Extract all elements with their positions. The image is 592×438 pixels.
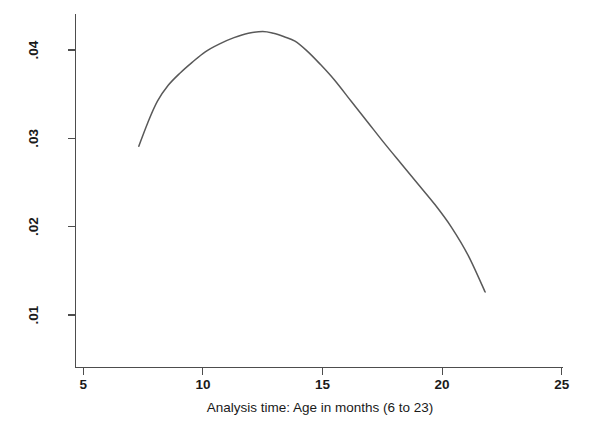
y-axis-ticks	[68, 50, 76, 315]
y-axis-tick-labels: .04 .03 .02 .01	[26, 40, 41, 324]
x-tick-label: 25	[554, 377, 570, 392]
y-tick-label: .01	[26, 305, 41, 324]
y-tick-label: .03	[26, 128, 41, 147]
hazard-curve	[139, 31, 485, 292]
x-tick-label: 10	[195, 377, 210, 392]
x-tick-label: 15	[315, 377, 331, 392]
x-axis-title: Analysis time: Age in months (6 to 23)	[207, 400, 434, 415]
x-tick-label: 20	[435, 377, 450, 392]
hazard-line-chart: .04 .03 .02 .01 5 10 15 20 25 Analysis t…	[0, 0, 592, 438]
y-tick-label: .02	[26, 217, 41, 236]
x-tick-label: 5	[80, 377, 88, 392]
y-tick-label: .04	[26, 40, 41, 59]
x-axis-tick-labels: 5 10 15 20 25	[80, 377, 570, 392]
chart-figure: .04 .03 .02 .01 5 10 15 20 25 Analysis t…	[0, 0, 592, 438]
x-axis-ticks	[83, 368, 561, 376]
